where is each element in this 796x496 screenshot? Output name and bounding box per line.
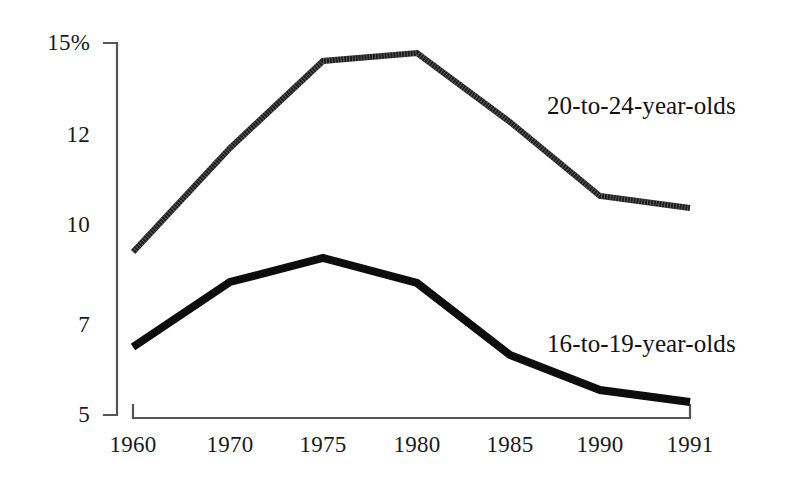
series-line-20-to-24 [133,53,690,252]
y-axis-line [103,43,117,415]
series-line-16-to-19 [133,258,690,402]
series-line-20-to-24-texture [133,53,690,252]
x-axis-line [133,404,690,418]
plot-area [0,0,796,496]
chart-container: 15% 12 10 7 5 1960 1970 1975 1980 1985 1… [0,0,796,496]
